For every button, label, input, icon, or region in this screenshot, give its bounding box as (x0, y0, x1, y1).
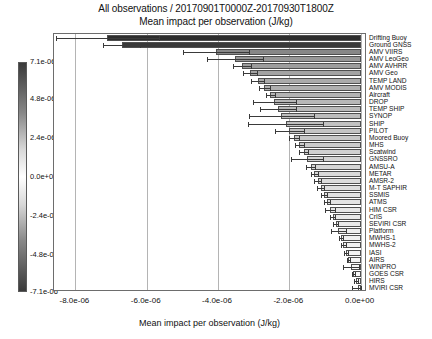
error-cap-28-1 (343, 236, 344, 241)
error-bar-19 (311, 174, 318, 175)
category-label-m-t-saphir: M-T SAPHIR (369, 184, 407, 191)
error-cap-22-0 (321, 193, 322, 198)
bar-ssmis (324, 192, 361, 198)
error-cap-2-1 (249, 50, 250, 55)
x-tick-label-4: 0.0e+00 (345, 296, 374, 305)
bar-amv-avhrr (242, 63, 360, 69)
error-cap-13-0 (275, 129, 276, 134)
category-label-drop: DROP (369, 98, 388, 105)
error-cap-27-1 (346, 229, 347, 234)
gridline-1 (147, 34, 148, 290)
error-cap-17-1 (323, 157, 324, 162)
error-bar-32 (343, 267, 359, 268)
category-label-amsu-a: AMSU-A (369, 162, 395, 169)
gridline-0 (75, 34, 76, 290)
error-cap-16-1 (308, 150, 309, 155)
error-bar-27 (331, 231, 345, 232)
gridline-2 (218, 34, 219, 290)
category-label-synop: SYNOP (369, 112, 392, 119)
gridline-4 (361, 34, 362, 290)
category-label-aircraft: Aircraft (369, 90, 390, 97)
category-label-scatwind: Scatwind (369, 148, 396, 155)
error-cap-5-0 (243, 71, 244, 76)
error-cap-21-0 (317, 186, 318, 191)
error-cap-8-0 (266, 93, 267, 98)
category-label-drifting-buoy: Drifting Buoy (369, 33, 407, 40)
category-label-cris: CrIS (369, 212, 382, 219)
error-cap-1-0 (103, 43, 104, 48)
error-bar-5 (243, 73, 257, 74)
error-cap-19-0 (311, 172, 312, 177)
error-cap-23-1 (330, 200, 331, 205)
category-label-temp-ship: TEMP SHIP (369, 105, 404, 112)
category-label-ship: SHIP (369, 119, 384, 126)
error-bar-15 (295, 145, 304, 146)
error-cap-19-1 (318, 172, 319, 177)
error-cap-24-1 (335, 208, 336, 213)
category-label-amv-geo: AMV Geo (369, 69, 398, 76)
bar-aircraft (270, 92, 360, 98)
x-tick-label-1: -6.0e-06 (131, 296, 161, 305)
error-bar-12 (248, 124, 323, 125)
error-cap-4-1 (251, 64, 252, 69)
bar-amsr-2 (318, 178, 361, 184)
error-bar-6 (251, 81, 264, 82)
error-cap-23-0 (324, 200, 325, 205)
error-cap-7-0 (259, 86, 260, 91)
error-bar-14 (289, 138, 299, 139)
error-bar-3 (207, 59, 263, 60)
category-label-ground-gnss: Ground GNSS (369, 40, 412, 47)
error-cap-14-0 (289, 136, 290, 141)
error-cap-35-0 (352, 286, 353, 291)
error-bar-13 (275, 131, 304, 132)
category-label-amv-modis: AMV MODIS (369, 83, 407, 90)
error-bar-9 (253, 102, 296, 103)
error-cap-27-0 (331, 229, 332, 234)
error-bar-16 (299, 152, 308, 153)
error-cap-11-0 (249, 114, 250, 119)
bar-scatwind (304, 149, 361, 155)
bar-moored-buoy (294, 135, 361, 141)
category-label-mviri-csr: MVIRI CSR (369, 284, 403, 291)
error-cap-1-1 (140, 43, 141, 48)
error-cap-2-0 (183, 50, 184, 55)
error-cap-18-0 (306, 165, 307, 170)
error-bar-17 (291, 159, 323, 160)
bar-cris (333, 214, 361, 220)
error-cap-26-1 (338, 222, 339, 227)
colorbar-gradient (18, 62, 27, 292)
error-bar-20 (314, 181, 321, 182)
error-cap-21-1 (324, 186, 325, 191)
error-cap-7-1 (270, 86, 271, 91)
category-label-mhs: MHS (369, 141, 384, 148)
error-bar-4 (233, 66, 252, 67)
error-cap-13-1 (304, 129, 305, 134)
error-cap-31-1 (350, 258, 351, 263)
error-cap-29-1 (346, 243, 347, 248)
error-cap-10-1 (296, 107, 297, 112)
error-bar-35 (352, 288, 361, 289)
colorbar-tick-1: 4.8e-06 (30, 95, 55, 103)
category-label-amv-avhrr: AMV AVHRR (369, 62, 407, 69)
error-cap-28-0 (339, 236, 340, 241)
error-cap-12-0 (248, 122, 249, 127)
error-bar-7 (259, 88, 270, 89)
category-label-mwhs-2: MWHS-2 (369, 241, 396, 248)
category-label-iasi: IASI (369, 248, 381, 255)
category-label-hirs: HIRS (369, 277, 385, 284)
bar-mhs (299, 142, 360, 148)
x-tick-label-0: -8.0e-06 (59, 296, 89, 305)
error-cap-29-0 (341, 243, 342, 248)
category-label-airs: AIRS (369, 255, 384, 262)
category-label-seviri-csr: SEVIRI CSR (369, 219, 406, 226)
category-label-amsr-2: AMSR-2 (369, 176, 394, 183)
x-tick-label-3: -2.0e-06 (273, 296, 303, 305)
error-cap-18-1 (315, 165, 316, 170)
category-label-winpro: WINPRO (369, 262, 396, 269)
x-axis-label: Mean impact per observation (J/kg) (53, 318, 366, 328)
error-bar-24 (325, 210, 335, 211)
bar-amv-modis (264, 85, 360, 91)
category-label-gnssro: GNSSRO (369, 155, 398, 162)
colorbar-tick-2: 2.4e-06 (30, 134, 55, 142)
bar-ground-gnss (122, 42, 361, 48)
